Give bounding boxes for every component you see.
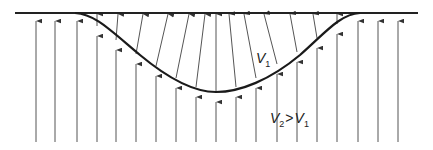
label-v2-gt-v1: V2>V1 — [270, 111, 309, 129]
ray-refracted — [290, 14, 297, 52]
ray-refracted — [229, 14, 236, 87]
ray-group — [36, 14, 398, 142]
ray-refracted — [244, 14, 256, 78]
refraction-diagram — [0, 0, 433, 150]
ray-refracted — [313, 14, 317, 38]
ray-refracted — [136, 14, 143, 54]
ray-refracted — [156, 14, 168, 66]
ray-refracted — [196, 14, 205, 87]
ray-refracted — [176, 14, 189, 78]
label-v1: V1 — [256, 51, 270, 69]
